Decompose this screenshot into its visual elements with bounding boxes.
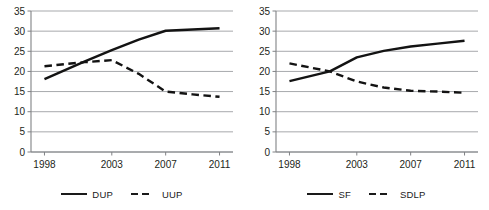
chart-panel-right: 051015202530351998200320072011 SF SDLP [244,0,489,210]
x-tick-label: 2007 [155,159,178,170]
legend-entry-dup[interactable]: DUP [61,189,113,200]
y-tick-label: 10 [14,106,26,117]
two-panel-line-chart-figure: 051015202530351998200320072011 DUP UUP 0… [0,0,489,210]
y-tick-label: 30 [259,26,271,37]
legend-line-dashed-icon [369,189,395,199]
y-tick-label: 25 [14,46,26,57]
legend-entry-sf[interactable]: SF [307,189,351,200]
y-tick-label: 0 [19,147,25,158]
y-tick-label: 0 [264,147,270,158]
y-tick-label: 20 [259,66,271,77]
y-tick-label: 35 [259,6,271,17]
y-tick-label: 35 [14,6,26,17]
x-tick-label: 1998 [33,159,56,170]
legend-entry-sdlp[interactable]: SDLP [369,189,426,200]
x-tick-label: 1998 [278,159,301,170]
chart-svg-right: 051015202530351998200320072011 [244,0,489,176]
legend-label-dup: DUP [92,189,113,200]
legend-line-solid-icon [61,189,87,199]
legend-line-dashed-icon [131,189,157,199]
chart-panel-left: 051015202530351998200320072011 DUP UUP [0,0,244,210]
legend-label-sdlp: SDLP [400,189,426,200]
x-tick-label: 2011 [454,159,476,170]
legend-entry-uup[interactable]: UUP [131,189,183,200]
y-tick-label: 25 [259,46,271,57]
chart-svg-left: 051015202530351998200320072011 [0,0,244,176]
x-tick-label: 2003 [346,159,369,170]
legend-line-solid-icon [307,189,333,199]
y-tick-label: 15 [14,86,26,97]
series-line-sdlp [289,63,464,92]
series-line-sf [289,41,464,81]
plot-area-right: 051015202530351998200320072011 [244,0,489,176]
legend-label-sf: SF [338,189,351,200]
y-tick-label: 5 [19,126,25,137]
y-tick-label: 10 [259,106,271,117]
x-tick-label: 2003 [101,159,124,170]
plot-area-left: 051015202530351998200320072011 [0,0,244,176]
y-tick-label: 15 [259,86,271,97]
y-tick-label: 20 [14,66,26,77]
y-tick-label: 5 [264,126,270,137]
legend-left: DUP UUP [0,182,244,206]
y-tick-label: 30 [14,26,26,37]
x-tick-label: 2011 [209,159,231,170]
x-tick-label: 2007 [400,159,423,170]
legend-label-uup: UUP [162,189,183,200]
legend-right: SF SDLP [244,182,489,206]
